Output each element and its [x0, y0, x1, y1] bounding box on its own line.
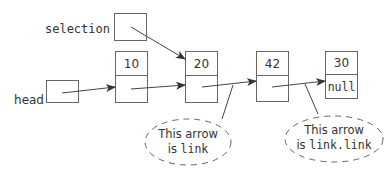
callout-pointer-line — [305, 84, 318, 114]
selection-box — [115, 14, 147, 41]
callout-text-line1: This arrow — [303, 123, 364, 137]
head-label: head — [14, 93, 44, 107]
selection-arrow — [131, 27, 185, 59]
node-20: 20 — [186, 52, 218, 103]
callout-text-line2: is link.link — [296, 138, 371, 152]
linked-list-diagram: selection head 10 20 42 30 null This arr… — [0, 0, 385, 169]
link-arrow-10-20 — [131, 85, 185, 89]
callout-link: This arrow is link — [145, 85, 233, 165]
node-data: 42 — [265, 57, 280, 71]
head-arrow — [62, 87, 115, 93]
callout-text-line2: is link — [168, 142, 209, 156]
callout-pointer-line — [222, 85, 233, 119]
callout-text-line1: This arrow — [157, 127, 218, 141]
node-42: 42 — [257, 52, 289, 102]
node-30: 30 null — [326, 52, 358, 99]
head-pointer: head — [14, 81, 78, 108]
node-data: 20 — [194, 57, 209, 71]
node-data: 30 — [334, 56, 349, 70]
node-10: 10 — [116, 52, 148, 103]
link-arrow-20-42 — [202, 81, 256, 87]
node-link-null: null — [328, 80, 356, 94]
diagram-svg: selection head 10 20 42 30 null This arr… — [0, 0, 385, 169]
link-arrow-42-30 — [272, 81, 325, 87]
callout-link-link: This arrow is link.link — [285, 84, 383, 162]
selection-label: selection — [45, 22, 110, 36]
node-data: 10 — [124, 57, 139, 71]
